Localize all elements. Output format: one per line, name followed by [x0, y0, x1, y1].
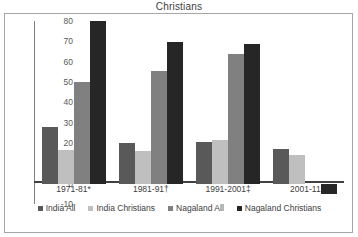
- bar[interactable]: [151, 71, 167, 184]
- legend-swatch-icon: [237, 206, 242, 211]
- bar[interactable]: [273, 149, 289, 184]
- bar[interactable]: [167, 42, 183, 183]
- legend-label: India All: [46, 203, 76, 213]
- bar-slot: [305, 21, 321, 204]
- bar[interactable]: [42, 127, 58, 184]
- bar-group: [190, 21, 267, 204]
- bar-group: [267, 21, 344, 204]
- legend-item[interactable]: Nagaland Christians: [237, 203, 322, 213]
- bar-slot: [119, 21, 135, 204]
- bar-slot: [135, 21, 151, 204]
- legend-swatch-icon: [88, 206, 93, 211]
- bar[interactable]: [244, 44, 260, 183]
- legend-label: Nagaland Christians: [245, 203, 322, 213]
- x-category-label: 2001-11: [267, 184, 344, 194]
- bar-slot: [42, 21, 58, 204]
- bar-group: [112, 21, 189, 204]
- bar[interactable]: [196, 142, 212, 184]
- bar-slot: [244, 21, 260, 204]
- legend-label: India Christians: [96, 203, 155, 213]
- bar-slot: [58, 21, 74, 204]
- x-category-label: 1971-81*: [35, 184, 112, 194]
- x-category-label: 1981-91†: [112, 184, 189, 194]
- bar[interactable]: [74, 82, 90, 184]
- legend-item[interactable]: India Christians: [88, 203, 155, 213]
- plot-area: 80706050403020100-10 1971-81*1981-91†199…: [5, 14, 354, 234]
- bar[interactable]: [228, 54, 244, 184]
- bar-group: [35, 21, 112, 204]
- bar[interactable]: [212, 140, 228, 184]
- chart-container: Christians 80706050403020100-10 1971-81*…: [0, 0, 358, 237]
- bar-slot: [167, 21, 183, 204]
- bar-slot: [321, 21, 337, 204]
- bar-slot: [212, 21, 228, 204]
- bar[interactable]: [135, 151, 151, 184]
- bar-slot: [273, 21, 289, 204]
- chart-title: Christians: [0, 1, 358, 12]
- legend-item[interactable]: India All: [38, 203, 76, 213]
- bar-slot: [289, 21, 305, 204]
- x-category-label: 1991-2001‡: [190, 184, 267, 194]
- bar-slot: [196, 21, 212, 204]
- bar[interactable]: [58, 150, 74, 184]
- chart-legend: India AllIndia ChristiansNagaland AllNag…: [5, 203, 354, 213]
- legend-swatch-icon: [38, 206, 43, 211]
- legend-label: Nagaland All: [176, 203, 224, 213]
- bar[interactable]: [289, 155, 305, 183]
- bar-slot: [151, 21, 167, 204]
- bar-slot: [90, 21, 106, 204]
- bar-slot: [228, 21, 244, 204]
- bar-series-layer: [35, 21, 344, 204]
- bar[interactable]: [90, 21, 106, 184]
- bar-slot: [74, 21, 90, 204]
- bar[interactable]: [119, 143, 135, 184]
- chart-plot-frame: 80706050403020100-10 1971-81*1981-91†199…: [4, 13, 353, 233]
- legend-swatch-icon: [168, 206, 173, 211]
- legend-item[interactable]: Nagaland All: [168, 203, 224, 213]
